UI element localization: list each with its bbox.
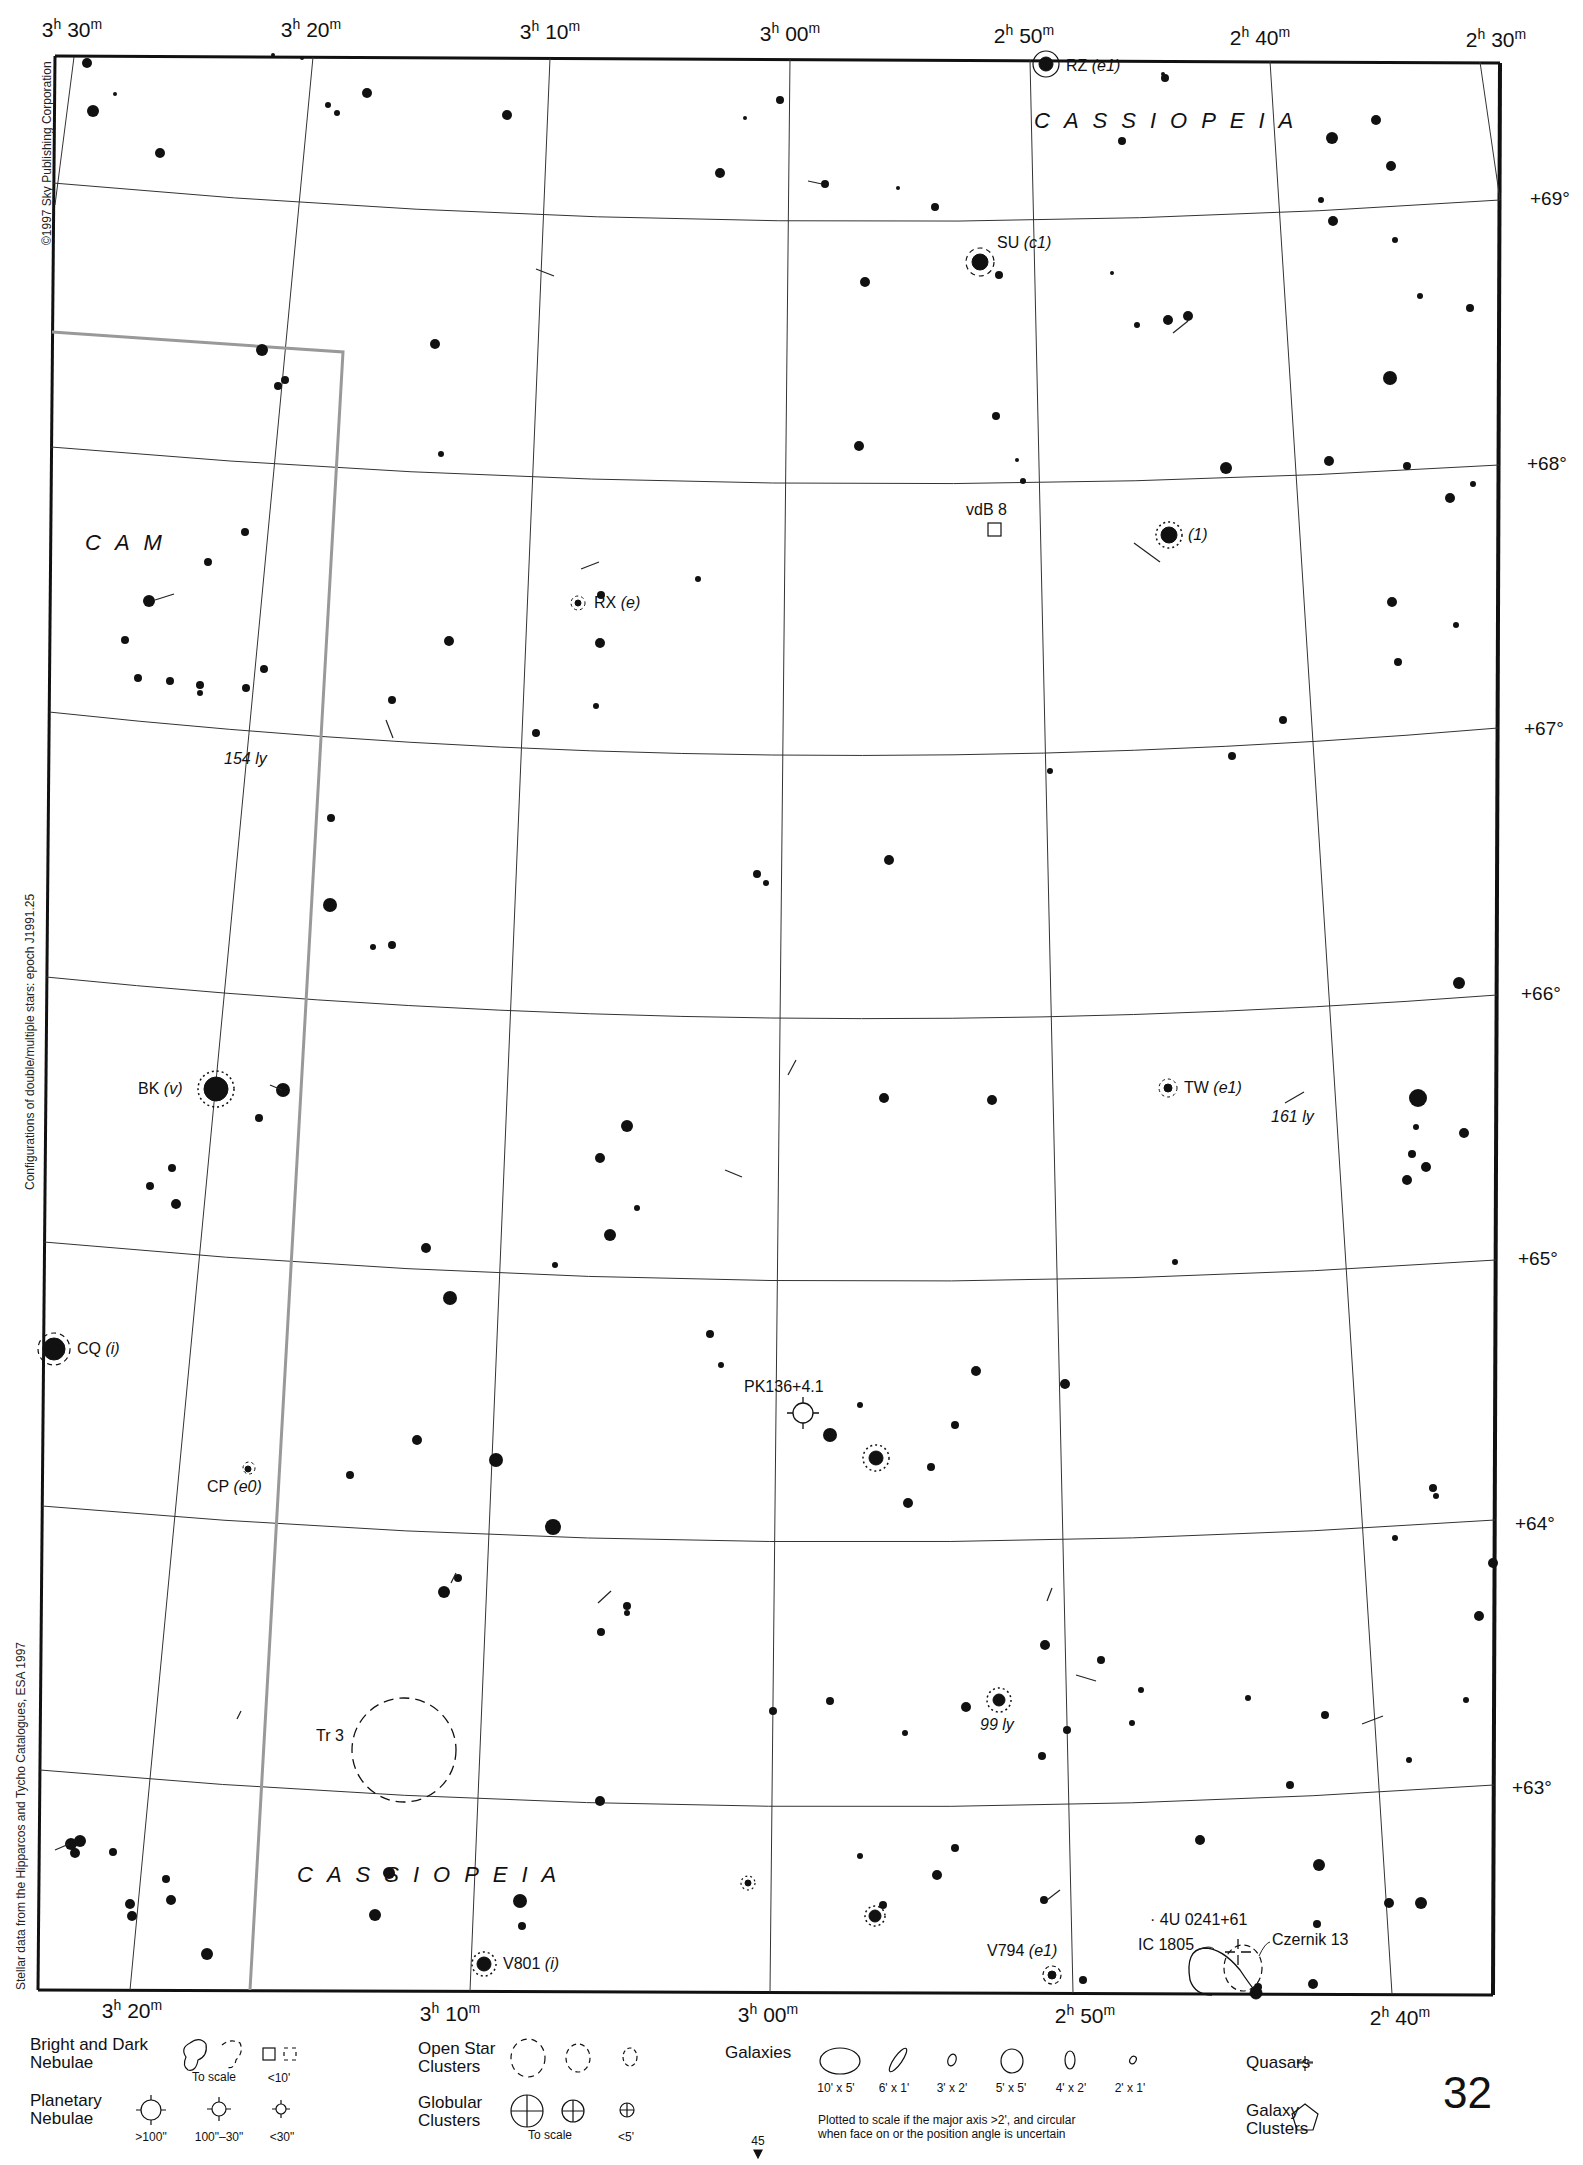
declination-grid [40, 183, 1500, 1807]
ra-label-top-3h20m: 3h 20m [281, 16, 341, 42]
epoch-note: Configurations of double/multiple stars:… [23, 894, 37, 1190]
dec-label-65: +65° [1518, 1248, 1558, 1270]
legend-globular-to-scale: To scale [528, 2128, 572, 2142]
dec-label-67: +67° [1524, 718, 1564, 740]
dec-label-64: +64° [1515, 1513, 1555, 1535]
legend-nebulae-to-scale: To scale [192, 2070, 236, 2084]
label-pk136[interactable]: PK136+4.1 [744, 1378, 824, 1396]
legend-planetary-size-2: 100"–30" [195, 2130, 244, 2144]
constellation-label-cassiopeia-top: CASSIOPEIA [1034, 108, 1307, 134]
dec-label-66: +66° [1521, 983, 1561, 1005]
constellation-label-cam: CAM [85, 530, 176, 556]
legend-planetary-size-1: >100" [135, 2130, 166, 2144]
legend-galaxy-size-2: 6' x 1' [879, 2081, 910, 2095]
label-v794[interactable]: V794 (e1) [987, 1942, 1057, 1960]
data-source-note: Stellar data from the Hipparcos and Tych… [14, 1642, 28, 1990]
constellation-label-cassiopeia-bottom: CASSIOPEIA [297, 1862, 570, 1888]
legend-galaxy-note: Plotted to scale if the major axis >2', … [818, 2113, 1075, 2141]
label-cp[interactable]: CP (e0) [207, 1478, 262, 1496]
stars [65, 53, 1498, 1991]
star-chart-canvas [0, 0, 1583, 2165]
distance-label-154ly: 154 ly [224, 750, 267, 768]
legend-galaxy-size-4: 5' x 5' [996, 2081, 1027, 2095]
legend-galaxy-size-5: 4' x 2' [1056, 2081, 1087, 2095]
legend-nebulae-small: <10' [268, 2071, 291, 2085]
label-bk[interactable]: BK (v) [138, 1080, 182, 1098]
label-tr3[interactable]: Tr 3 [316, 1727, 344, 1745]
proper-motion-lines [55, 181, 1383, 1900]
label-ic1805[interactable]: IC 1805 [1138, 1936, 1194, 1954]
ra-label-bottom-2h40m: 2h 40m [1370, 2004, 1430, 2030]
dec-label-63: +63° [1512, 1777, 1552, 1799]
constellation-boundary [52, 332, 343, 1990]
label-double-1[interactable]: (1) [1188, 526, 1208, 544]
ra-label-bottom-3h20m: 3h 20m [102, 1997, 162, 2023]
distance-label-161ly: 161 ly [1271, 1108, 1314, 1126]
legend-galaxy-clusters-title: GalaxyClusters [1246, 2102, 1308, 2138]
ra-label-top-2h30m: 2h 30m [1466, 26, 1526, 52]
legend-quasars-title: Quasars [1246, 2054, 1310, 2072]
legend-galaxy-size-6: 2' x 1' [1115, 2081, 1146, 2095]
legend-galaxy-size-3: 3' x 2' [937, 2081, 968, 2095]
ra-label-top-2h40m: 2h 40m [1230, 24, 1290, 50]
label-v801[interactable]: V801 (i) [503, 1955, 559, 1973]
label-cq[interactable]: CQ (i) [77, 1340, 120, 1358]
ra-label-top-3h00m: 3h 00m [760, 20, 820, 46]
distance-label-99ly: 99 ly [980, 1716, 1014, 1734]
legend-globular-small: <5' [618, 2130, 634, 2144]
label-su[interactable]: SU (c1) [997, 234, 1051, 252]
ra-label-bottom-2h50m: 2h 50m [1055, 2002, 1115, 2028]
legend-planetary-title: PlanetaryNebulae [30, 2092, 102, 2128]
legend-galaxies-title: Galaxies [725, 2044, 791, 2062]
label-tw[interactable]: TW (e1) [1184, 1079, 1242, 1097]
chart-number: 32 [1443, 2068, 1492, 2118]
copyright-text: ©1997 Sky Publishing Corporation [40, 61, 54, 245]
adjacent-chart-reference[interactable]: 45 [751, 2134, 764, 2148]
label-4u0241[interactable]: · 4U 0241+61 [1150, 1911, 1247, 1929]
legend-planetary-size-3: <30" [270, 2130, 295, 2144]
dec-label-68: +68° [1527, 453, 1567, 475]
label-rz[interactable]: RZ (e1) [1066, 57, 1120, 75]
legend-nebulae-title: Bright and DarkNebulae [30, 2036, 148, 2072]
label-czernik13[interactable]: Czernik 13 [1272, 1931, 1348, 1949]
ra-label-top-3h10m: 3h 10m [520, 18, 580, 44]
label-rx[interactable]: RX (e) [594, 594, 640, 612]
ra-label-top-3h30m: 3h 30m [42, 16, 102, 42]
ra-label-bottom-3h00m: 3h 00m [738, 2001, 798, 2027]
planetary-nebula-symbol [787, 1397, 819, 1429]
legend-globular-clusters-title: GlobularClusters [418, 2094, 482, 2130]
dec-label-69: +69° [1530, 188, 1570, 210]
legend-open-clusters-title: Open StarClusters [418, 2040, 496, 2076]
ra-label-bottom-3h10m: 3h 10m [420, 2000, 480, 2026]
ra-label-top-2h50m: 2h 50m [994, 22, 1054, 48]
legend-galaxy-size-1: 10' x 5' [817, 2081, 854, 2095]
label-vdb8[interactable]: vdB 8 [966, 501, 1007, 519]
